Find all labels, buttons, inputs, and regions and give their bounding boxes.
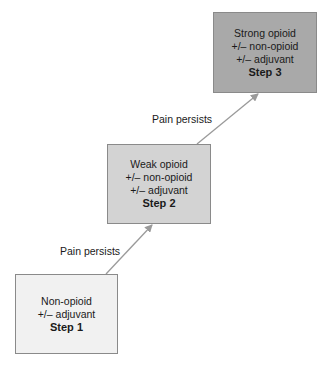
step-2-line-2: +/– non-opioid — [126, 171, 193, 184]
step-2-box: Weak opioid +/– non-opioid +/– adjuvant … — [107, 144, 211, 224]
step-3-label: Step 3 — [248, 66, 281, 79]
step-3-line-2: +/– non-opioid — [232, 40, 299, 53]
step-1-line-1: Non-opioid — [41, 295, 92, 308]
step-3-line-3: +/– adjuvant — [236, 53, 294, 66]
step-2-label: Step 2 — [142, 197, 175, 210]
transition-label-2: Pain persists — [152, 113, 212, 125]
step-1-line-2: +/– adjuvant — [38, 308, 96, 321]
step-1-label: Step 1 — [50, 321, 83, 334]
step-3-line-1: Strong opioid — [234, 27, 296, 40]
step-1-box: Non-opioid +/– adjuvant Step 1 — [15, 274, 118, 354]
transition-label-1: Pain persists — [60, 245, 120, 257]
step-2-line-3: +/– adjuvant — [130, 184, 188, 197]
step-3-box: Strong opioid +/– non-opioid +/– adjuvan… — [213, 12, 317, 93]
step-2-line-1: Weak opioid — [130, 158, 188, 171]
